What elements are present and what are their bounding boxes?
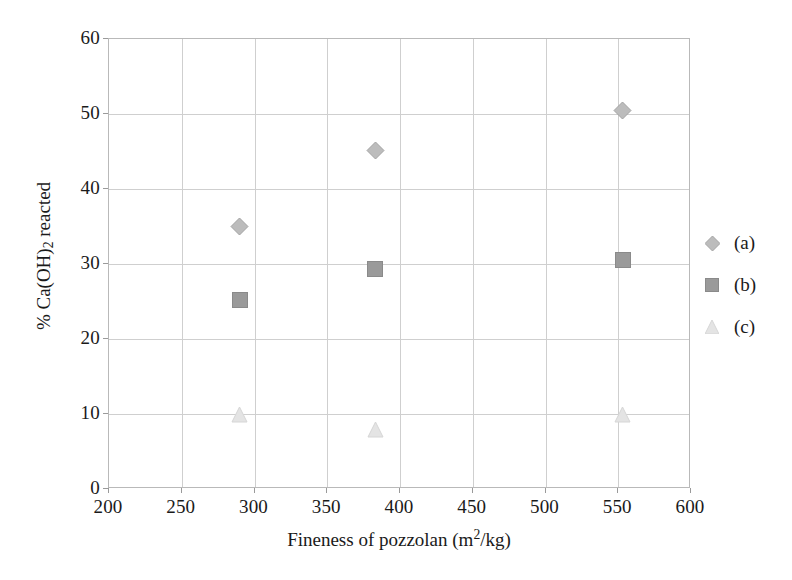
x-tick-mark — [472, 488, 473, 493]
triangle-icon — [700, 317, 724, 337]
y-tick-label: 50 — [56, 102, 100, 124]
gridline-horizontal — [109, 189, 689, 190]
data-point-marker — [367, 261, 383, 277]
y-tick-mark — [103, 38, 108, 39]
gridline-vertical — [473, 39, 474, 487]
x-tick-mark — [617, 488, 618, 493]
data-point-marker — [615, 407, 630, 422]
x-axis-title: Fineness of pozzolan (m2/kg) — [108, 527, 690, 551]
gridline-horizontal — [109, 264, 689, 265]
x-tick-label: 500 — [515, 496, 575, 518]
y-tick-mark — [103, 488, 108, 489]
x-tick-label: 350 — [296, 496, 356, 518]
x-tick-mark — [545, 488, 546, 493]
gridline-vertical — [182, 39, 183, 487]
y-tick-label: 10 — [56, 402, 100, 424]
data-point-marker — [232, 407, 247, 422]
legend-item-c[interactable]: (c) — [700, 306, 788, 348]
legend-item-label: (c) — [734, 316, 755, 338]
x-tick-mark — [326, 488, 327, 493]
y-tick-label: 40 — [56, 177, 100, 199]
y-tick-mark — [103, 338, 108, 339]
x-tick-label: 550 — [587, 496, 647, 518]
gridline-vertical — [546, 39, 547, 487]
x-tick-mark — [399, 488, 400, 493]
data-point-marker — [368, 422, 383, 437]
gridline-horizontal — [109, 414, 689, 415]
x-tick-mark — [690, 488, 691, 493]
x-tick-label: 400 — [369, 496, 429, 518]
data-point-marker — [367, 142, 384, 159]
y-tick-mark — [103, 263, 108, 264]
gridline-horizontal — [109, 339, 689, 340]
x-tick-mark — [254, 488, 255, 493]
data-point-marker — [615, 252, 631, 268]
diamond-icon — [700, 233, 724, 253]
x-tick-mark — [181, 488, 182, 493]
legend-item-label: (b) — [734, 274, 756, 296]
y-tick-label: 30 — [56, 252, 100, 274]
gridline-vertical — [255, 39, 256, 487]
chart-legend: (a)(b)(c) — [700, 222, 788, 348]
x-tick-mark — [108, 488, 109, 493]
gridline-vertical — [400, 39, 401, 487]
data-point-marker — [614, 102, 631, 119]
data-point-marker — [232, 292, 248, 308]
legend-item-label: (a) — [734, 232, 755, 254]
y-tick-label: 20 — [56, 327, 100, 349]
y-tick-mark — [103, 188, 108, 189]
x-tick-label: 250 — [151, 496, 211, 518]
y-tick-mark — [103, 113, 108, 114]
x-tick-label: 450 — [442, 496, 502, 518]
x-tick-label: 300 — [224, 496, 284, 518]
plot-area — [108, 38, 690, 488]
square-icon — [700, 275, 724, 295]
gridline-horizontal — [109, 114, 689, 115]
legend-item-a[interactable]: (a) — [700, 222, 788, 264]
y-tick-label: 60 — [56, 27, 100, 49]
y-tick-mark — [103, 413, 108, 414]
y-tick-label: 0 — [56, 477, 100, 499]
x-tick-label: 600 — [660, 496, 720, 518]
legend-item-b[interactable]: (b) — [700, 264, 788, 306]
gridline-vertical — [327, 39, 328, 487]
data-point-marker — [231, 218, 248, 235]
y-axis-title: % Ca(OH)2 reacted — [33, 91, 57, 421]
scatter-chart-figure: 200250300350400450500550600 010203040506… — [0, 0, 792, 580]
y-axis-tick-labels: 0102030405060 — [50, 0, 100, 580]
